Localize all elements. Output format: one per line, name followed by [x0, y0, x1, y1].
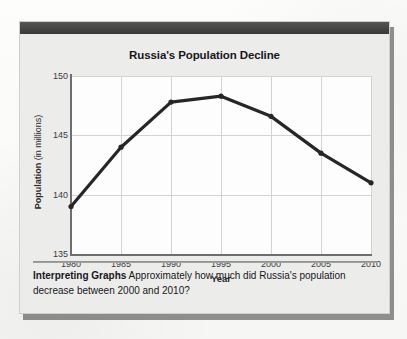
figure-panel: Russia's Population Decline 135140145150…: [19, 21, 390, 314]
data-point-marker: [318, 151, 323, 156]
population-line-series: [20, 67, 391, 267]
caption-divider: [33, 261, 378, 263]
data-point-marker: [68, 204, 73, 209]
page-root: Russia's Population Decline 135140145150…: [0, 0, 407, 339]
data-point-marker: [268, 114, 273, 119]
caption-text: Interpreting Graphs Approximately how mu…: [33, 268, 381, 298]
chart-plot-region: 135140145150 198019851990199520002005201…: [20, 67, 391, 267]
data-point-marker: [368, 180, 373, 185]
caption-label: Interpreting Graphs: [33, 270, 126, 281]
series-polyline: [71, 96, 371, 206]
panel-header-bar: [20, 22, 389, 34]
data-point-marker: [118, 145, 123, 150]
data-point-marker: [218, 94, 223, 99]
chart-title: Russia's Population Decline: [20, 49, 389, 61]
series-markers: [68, 94, 373, 210]
data-point-marker: [168, 100, 173, 105]
